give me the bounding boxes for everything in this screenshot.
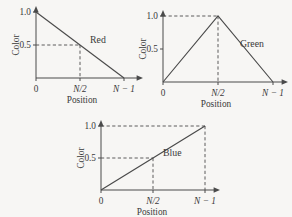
green-y-axis-title: Color	[138, 38, 148, 60]
green-x-tick-label-nminus1: N − 1	[261, 88, 284, 98]
red-x-axis-title: Position	[67, 95, 98, 105]
green-series-label: Green	[240, 38, 264, 49]
green-x-axis-title: Position	[201, 99, 232, 109]
blue-y-tick-label-0p5: 0.5	[84, 153, 96, 163]
blue-y-tick-label-1p0: 1.0	[84, 121, 96, 131]
blue-x-axis-arrowhead	[214, 187, 220, 192]
blue-x-tick-label-nminus1: N − 1	[193, 196, 216, 206]
red-y-axis-title: Color	[11, 34, 21, 56]
chart-panel-blue: 1.0 0.5 0 N/2 N − 1 Position Color Blue	[76, 120, 220, 217]
rgb-ramp-figure: 1.0 0.5 0 N/2 N − 1 Position Color Red	[0, 0, 292, 217]
red-series-label: Red	[90, 34, 106, 45]
blue-series-label: Blue	[163, 147, 182, 158]
green-y-axis-arrowhead	[160, 10, 165, 16]
blue-y-axis-arrowhead	[98, 120, 103, 126]
red-x-tick-label-0: 0	[34, 84, 39, 94]
blue-x-axis-title: Position	[137, 207, 168, 217]
red-y-tick-label-0p5: 0.5	[19, 40, 31, 50]
green-y-tick-label-0p5: 0.5	[146, 44, 158, 54]
blue-x-tick-label-nhalf: N/2	[145, 196, 160, 206]
red-y-axis-arrowhead	[33, 6, 38, 12]
green-x-axis-arrowhead	[282, 79, 288, 84]
green-y-tick-label-1p0: 1.0	[146, 11, 158, 21]
red-x-axis-arrowhead	[137, 75, 143, 80]
chart-panel-red: 1.0 0.5 0 N/2 N − 1 Position Color Red	[11, 6, 143, 105]
green-x-tick-label-nhalf: N/2	[210, 88, 225, 98]
red-x-tick-label-nminus1: N − 1	[112, 84, 135, 94]
blue-x-tick-label-0: 0	[99, 196, 104, 206]
chart-panel-green: 1.0 0.5 0 N/2 N − 1 Position Color Green	[138, 10, 288, 109]
green-x-tick-label-0: 0	[161, 88, 166, 98]
red-y-tick-label-1p0: 1.0	[19, 7, 31, 17]
blue-y-axis-title: Color	[76, 147, 86, 169]
red-x-tick-label-nhalf: N/2	[72, 84, 87, 94]
